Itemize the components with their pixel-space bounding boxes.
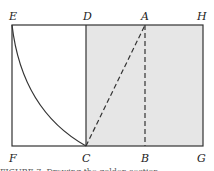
label-B: B: [140, 152, 149, 165]
label-F: F: [8, 152, 17, 165]
label-H: H: [196, 10, 207, 23]
label-A: A: [140, 10, 149, 23]
figure-caption: FIGURE 7. Drawing the golden section: [0, 167, 158, 171]
arc-EC: [12, 25, 86, 146]
label-C: C: [82, 152, 91, 165]
label-E: E: [8, 10, 17, 23]
label-G: G: [197, 152, 206, 165]
golden-rectangle-diagram: E D A H F C B G FIGURE 7. Drawing the go…: [0, 0, 214, 171]
label-D: D: [82, 10, 92, 23]
